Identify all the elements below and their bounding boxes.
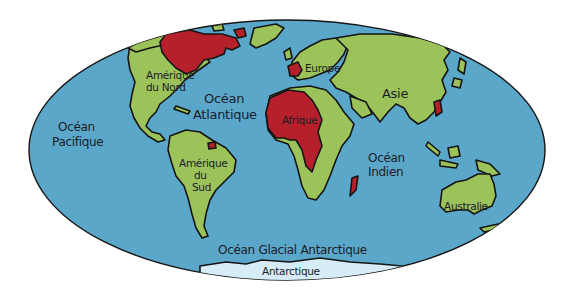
label-antarctica: Antarctique bbox=[262, 265, 320, 277]
label-north-america-1: Amérique bbox=[146, 69, 195, 81]
label-south-america-3: Sud bbox=[192, 181, 211, 193]
label-indian-ocean-2: Indien bbox=[368, 165, 403, 179]
label-australia: Australie bbox=[444, 200, 488, 212]
label-europe: Europe bbox=[305, 62, 340, 74]
label-north-america-2: du Nord bbox=[146, 81, 186, 93]
label-pacific-ocean-2: Pacifique bbox=[52, 135, 103, 149]
guyane-highlight bbox=[208, 142, 216, 149]
label-south-america-2: du bbox=[194, 169, 207, 181]
vietnam-highlight bbox=[434, 100, 442, 116]
label-indian-ocean-1: Océan bbox=[368, 151, 405, 165]
japan-island bbox=[458, 58, 466, 74]
world-map: Océan Pacifique Océan Atlantique Océan I… bbox=[0, 0, 572, 294]
label-atlantic-ocean-1: Océan bbox=[204, 91, 244, 106]
label-atlantic-ocean-2: Atlantique bbox=[193, 107, 257, 122]
label-pacific-ocean-1: Océan bbox=[58, 120, 95, 134]
label-africa: Afrique bbox=[282, 114, 317, 126]
label-southern-ocean: Océan Glacial Antarctique bbox=[218, 243, 367, 257]
japan-island-2 bbox=[452, 78, 462, 88]
label-south-america-1: Amérique bbox=[179, 157, 228, 169]
label-asia: Asie bbox=[382, 86, 408, 101]
indonesia-island-2 bbox=[448, 146, 460, 158]
